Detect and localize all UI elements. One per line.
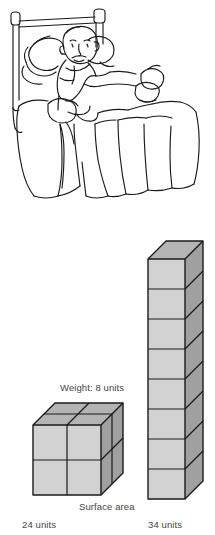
pillow-icon (22, 36, 114, 84)
blanket-body-icon (58, 71, 136, 110)
solid-blocks-diagram: .f{fill:#d2d2d2;} .t{fill:#b4b4b4;} .s{f… (0, 218, 215, 508)
tower-block-1x1x8 (148, 241, 203, 499)
head-icon (60, 26, 99, 63)
tower-surface-area-value: 34 units (148, 519, 182, 530)
surface-area-figure: .f{fill:#d2d2d2;} .t{fill:#b4b4b4;} .s{f… (0, 0, 215, 535)
cube-block-2x2x2 (33, 403, 123, 495)
weight-label: Weight: 8 units (60, 382, 124, 393)
sick-person-in-bed-illustration (0, 0, 215, 215)
bedspread-icon (17, 100, 199, 198)
surface-area-label: Surface area (79, 501, 135, 512)
torso-icon (57, 60, 110, 101)
cube-surface-area-value: 24 units (22, 519, 56, 530)
